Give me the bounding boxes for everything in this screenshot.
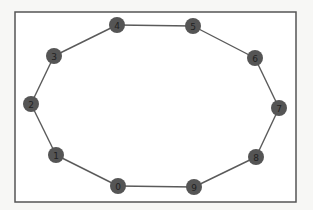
node-label: 4 <box>114 21 120 31</box>
graph-canvas: 0123456789 <box>0 0 313 210</box>
edge-4-5 <box>117 25 193 26</box>
node-3: 3 <box>46 48 62 64</box>
node-7: 7 <box>271 100 287 116</box>
node-label: 1 <box>53 151 59 161</box>
node-0: 0 <box>110 178 126 194</box>
node-2: 2 <box>23 96 39 112</box>
node-label: 2 <box>28 100 34 110</box>
node-label: 8 <box>253 153 259 163</box>
node-5: 5 <box>185 18 201 34</box>
plot-frame <box>15 12 296 202</box>
node-9: 9 <box>186 179 202 195</box>
node-label: 0 <box>115 182 121 192</box>
node-8: 8 <box>248 149 264 165</box>
node-label: 5 <box>190 22 196 32</box>
node-6: 6 <box>247 50 263 66</box>
node-label: 6 <box>252 54 258 64</box>
node-label: 3 <box>51 52 57 62</box>
node-1: 1 <box>48 147 64 163</box>
node-label: 9 <box>191 183 197 193</box>
node-label: 7 <box>276 104 282 114</box>
node-4: 4 <box>109 17 125 33</box>
edge-9-0 <box>118 186 194 187</box>
